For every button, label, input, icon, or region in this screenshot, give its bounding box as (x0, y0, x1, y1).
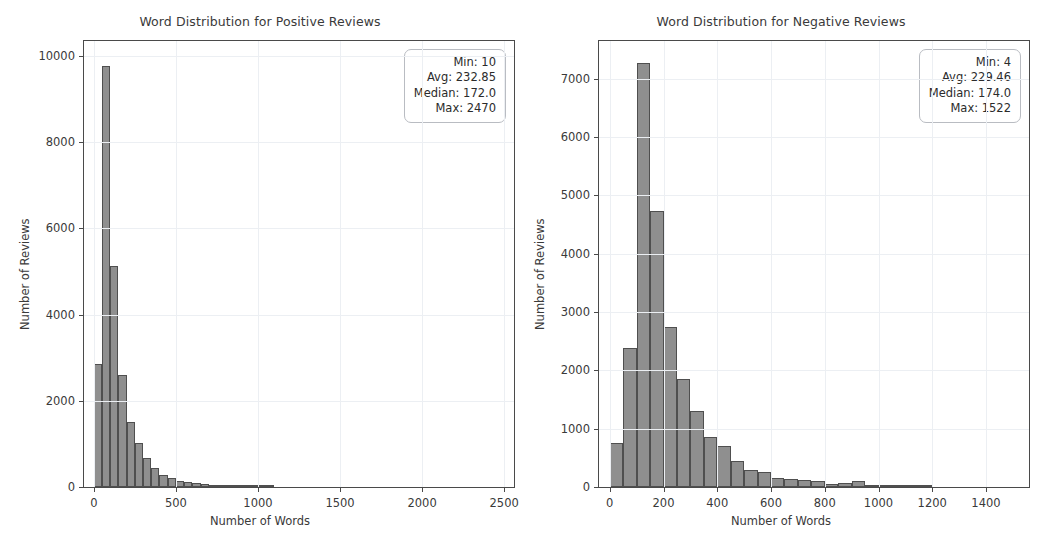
histogram-bar (892, 485, 905, 487)
y-axis-tick-label-positive: 8000 (46, 135, 75, 149)
stat-avg-positive: Avg: 232.85 (414, 70, 496, 85)
x-axis-tick-label-negative: 400 (706, 496, 728, 510)
y-axis-tick (79, 487, 84, 488)
x-axis-tick (94, 487, 95, 492)
y-axis-tick-label-negative: 4000 (561, 247, 590, 261)
histogram-bar (151, 468, 159, 487)
gridline-vertical (986, 41, 987, 487)
histogram-bar (118, 375, 126, 487)
x-axis-tick-label-positive: 0 (90, 496, 97, 510)
x-axis-tick (504, 487, 505, 492)
y-axis-tick (79, 401, 84, 402)
y-axis-tick-label-negative: 5000 (561, 188, 590, 202)
histogram-bar (242, 485, 250, 487)
x-axis-tick-label-negative: 0 (606, 496, 613, 510)
y-axis-tick (594, 312, 599, 313)
y-axis-tick (594, 370, 599, 371)
histogram-bar (879, 485, 892, 487)
gridline-vertical (879, 41, 880, 487)
histogram-bar (110, 266, 118, 487)
x-axis-tick-label-negative: 1000 (864, 496, 893, 510)
histogram-bar (811, 481, 824, 487)
y-axis-tick-label-positive: 0 (68, 480, 75, 494)
gridline-vertical (717, 41, 718, 487)
y-axis-tick-label-positive: 10000 (38, 49, 75, 63)
y-axis-tick-label-negative: 2000 (561, 363, 590, 377)
x-axis-tick (879, 487, 880, 492)
x-axis-tick-label-negative: 1400 (971, 496, 1000, 510)
y-axis-tick-label-positive: 6000 (46, 221, 75, 235)
plot-area-positive: Min: 10 Avg: 232.85 Median: 172.0 Max: 2… (83, 40, 515, 488)
histogram-bar (127, 422, 135, 487)
x-axis-tick (986, 487, 987, 492)
stats-box-positive: Min: 10 Avg: 232.85 Median: 172.0 Max: 2… (404, 49, 506, 123)
x-axis-tick (422, 487, 423, 492)
gridline-horizontal (84, 315, 514, 316)
x-axis-tick (340, 487, 341, 492)
histogram-bar (94, 364, 102, 487)
x-axis-tick (771, 487, 772, 492)
histogram-bar (102, 66, 110, 487)
histogram-bar (731, 461, 744, 487)
histogram-bar (201, 484, 209, 487)
y-axis-tick-label-positive: 4000 (46, 308, 75, 322)
gridline-vertical (340, 41, 341, 487)
gridline-vertical (176, 41, 177, 487)
x-axis-tick (176, 487, 177, 492)
histogram-bar (233, 485, 241, 487)
panel-negative-reviews: Word Distribution for Negative Reviews M… (521, 0, 1041, 542)
x-axis-title-negative: Number of Words (521, 514, 1041, 528)
histogram-bar (650, 211, 663, 487)
histogram-bar (690, 411, 703, 487)
stat-max-negative: Max: 1522 (929, 101, 1011, 116)
gridline-vertical (825, 41, 826, 487)
gridline-horizontal (84, 401, 514, 402)
gridline-horizontal (84, 142, 514, 143)
x-axis-tick (825, 487, 826, 492)
x-axis-tick-label-positive: 2000 (407, 496, 436, 510)
stat-median-negative: Median: 174.0 (929, 86, 1011, 101)
histogram-bar (905, 485, 918, 487)
figure-histograms: Word Distribution for Positive Reviews M… (0, 0, 1041, 542)
y-axis-tick (79, 56, 84, 57)
histogram-bar (266, 485, 274, 487)
x-axis-tick-label-positive: 1500 (325, 496, 354, 510)
gridline-vertical (771, 41, 772, 487)
histogram-bar (209, 485, 217, 487)
histogram-bar (825, 484, 838, 487)
histogram-bar (168, 478, 176, 487)
gridline-horizontal (84, 56, 514, 57)
x-axis-tick (664, 487, 665, 492)
y-axis-tick (594, 79, 599, 80)
x-axis-tick-label-positive: 1000 (243, 496, 272, 510)
stat-min-negative: Min: 4 (929, 55, 1011, 70)
y-axis-tick (594, 195, 599, 196)
y-axis-tick-label-negative: 1000 (561, 422, 590, 436)
gridline-horizontal (84, 228, 514, 229)
histogram-bar (744, 470, 757, 487)
gridline-vertical (258, 41, 259, 487)
x-axis-tick (717, 487, 718, 492)
histogram-bar (610, 443, 623, 487)
histogram-bar (225, 485, 233, 487)
x-axis-tick-label-negative: 600 (760, 496, 782, 510)
histogram-bar (919, 485, 932, 487)
histogram-bar (250, 485, 258, 487)
gridline-vertical (94, 41, 95, 487)
y-axis-title-positive: Number of Reviews (18, 218, 32, 330)
histogram-bar (704, 437, 717, 487)
gridline-vertical (610, 41, 611, 487)
histogram-bar (159, 475, 167, 487)
x-axis-tick-label-negative: 1200 (918, 496, 947, 510)
y-axis-tick (79, 228, 84, 229)
histogram-bar (623, 348, 636, 487)
gridline-vertical (504, 41, 505, 487)
histogram-bar (135, 443, 143, 487)
histogram-bar (677, 379, 690, 487)
histogram-bar (717, 446, 730, 487)
gridline-vertical (664, 41, 665, 487)
x-axis-tick (258, 487, 259, 492)
y-axis-tick-label-negative: 3000 (561, 305, 590, 319)
y-axis-tick-label-negative: 7000 (561, 72, 590, 86)
stat-median-positive: Median: 172.0 (414, 86, 496, 101)
